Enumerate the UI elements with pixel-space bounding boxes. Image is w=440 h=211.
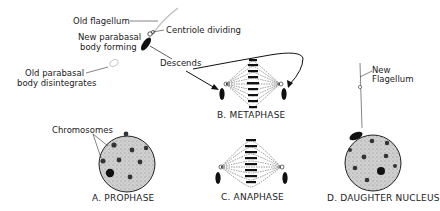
- label-new-flagellum-2: Flagellum: [372, 74, 413, 84]
- label-old-parabasal-1: Old parabasal: [25, 68, 84, 78]
- label-centriole-dividing: Centriole dividing: [166, 25, 241, 35]
- label-chromosomes: Chromosomes: [52, 125, 113, 135]
- metaphase-chromosomes: [247, 59, 259, 108]
- new-flagellum-icon: [360, 63, 362, 128]
- label-old-parabasal-2: body disintegrates: [17, 78, 96, 88]
- old-parabasal-body-icon: [109, 58, 120, 67]
- caption-d-daughter-nucleus: D. DAUGHTER NUCLEUS: [327, 193, 440, 203]
- prophase-nucleus: [93, 132, 155, 192]
- label-new-parabasal-2: body forming: [80, 42, 137, 52]
- label-descends: Descends: [160, 58, 201, 68]
- caption-b-metaphase: B. METAPHASE: [217, 110, 285, 120]
- caption-c-anaphase: C. ANAPHASE: [221, 192, 284, 202]
- label-new-parabasal-1: New parabasal: [78, 32, 141, 42]
- label-old-flagellum: Old flagellum: [73, 16, 130, 26]
- descends-arrows: [186, 53, 303, 90]
- caption-a-prophase: A. PROPHASE: [92, 193, 154, 203]
